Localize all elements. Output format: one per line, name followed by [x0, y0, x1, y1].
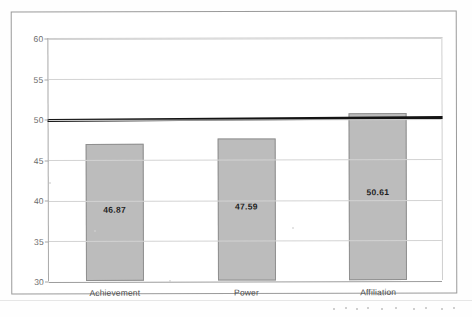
- scan-speck: [94, 230, 96, 232]
- y-tick-mark-60: [44, 38, 48, 39]
- scan-speck: [292, 227, 294, 229]
- y-axis-tick-label: 50: [34, 115, 44, 125]
- category-label-achievement: Achievement: [49, 288, 181, 298]
- plot-area: 46.8747.5950.61 30354045505560Achievemen…: [47, 37, 443, 281]
- y-tick-mark-35: [45, 241, 49, 242]
- scan-artifact: [330, 305, 470, 313]
- bar-affiliation[interactable]: 50.61: [349, 113, 407, 280]
- bar-value-label: 50.61: [350, 187, 406, 197]
- gridline-30: [49, 280, 442, 282]
- y-axis-tick-label: 45: [34, 156, 44, 166]
- y-axis-tick-label: 35: [34, 237, 44, 247]
- bar-value-label: 47.59: [218, 201, 274, 211]
- y-tick-mark-50: [45, 119, 49, 120]
- y-axis-tick-label: 30: [34, 277, 44, 287]
- category-label-power: Power: [181, 287, 313, 297]
- y-axis-tick-label: 60: [33, 34, 43, 44]
- y-tick-mark-40: [45, 200, 49, 201]
- category-label-affiliation: Affiliation: [312, 287, 444, 297]
- y-tick-mark-55: [44, 79, 48, 80]
- y-tick-mark-30: [45, 281, 49, 282]
- y-axis-tick-label: 55: [34, 75, 44, 85]
- gridline-55: [48, 78, 441, 80]
- y-axis-tick-label: 40: [34, 196, 44, 206]
- scan-speck: [49, 182, 51, 184]
- gridline-60: [48, 37, 441, 39]
- scanned-page: 46.8747.5950.61 30354045505560Achievemen…: [0, 0, 472, 317]
- bar-achievement[interactable]: 46.87: [85, 144, 143, 281]
- page-edge-line: [0, 300, 472, 301]
- bar-chart: 46.8747.5950.61 30354045505560Achievemen…: [0, 0, 472, 317]
- bar-value-label: 46.87: [87, 205, 143, 215]
- scan-speck: [169, 280, 171, 282]
- y-tick-mark-45: [45, 160, 49, 161]
